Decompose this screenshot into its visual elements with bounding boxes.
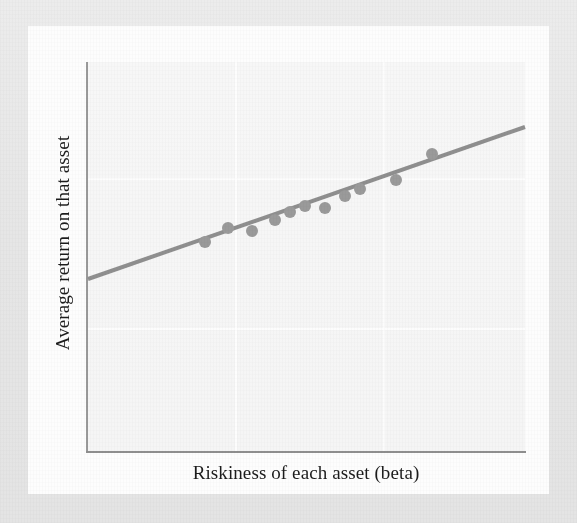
x-axis-label: Riskiness of each asset (beta) [87,462,525,484]
data-point [246,225,258,237]
data-point [269,214,281,226]
chart-figure: Average return on that asset Riskiness o… [0,0,577,523]
data-point [222,222,234,234]
chart-data-layer [0,0,577,523]
data-point [426,148,438,160]
data-point [319,202,331,214]
figure-page: faint reverse-side page bleed-through no… [0,0,577,523]
data-point [284,206,296,218]
y-axis-label: Average return on that asset [52,118,74,368]
data-point [390,174,402,186]
data-point [199,236,211,248]
data-point [354,183,366,195]
data-point [299,200,311,212]
data-point [339,190,351,202]
